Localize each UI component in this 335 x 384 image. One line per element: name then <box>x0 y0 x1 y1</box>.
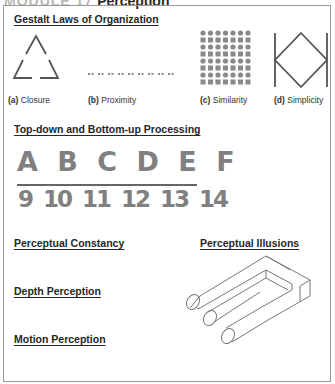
processing-title: Top-down and Bottom-up Processing <box>14 123 200 135</box>
constancy-title: Perceptual Constancy <box>14 237 124 249</box>
similarity-figure <box>200 30 256 86</box>
caption-proximity: (b) Proximity <box>88 95 136 105</box>
caption-similarity: (c) Similarity <box>200 95 247 105</box>
illusions-title: Perceptual Illusions <box>200 237 299 249</box>
letters-row: A B C D E F <box>17 146 240 177</box>
depth-title: Depth Perception <box>14 285 101 297</box>
impossible-trident-illusion <box>180 250 330 384</box>
caption-simplicity: (d) Simplicity <box>274 95 323 105</box>
proximity-figure <box>88 71 188 81</box>
gestalt-title: Gestalt Laws of Organization <box>14 13 159 25</box>
motion-title: Motion Perception <box>14 333 106 345</box>
closure-figure <box>8 32 68 92</box>
numbers-row: 9 10 11 12 13 14 <box>18 186 227 212</box>
simplicity-figure <box>272 31 332 93</box>
caption-closure: (a) Closure <box>8 95 50 105</box>
